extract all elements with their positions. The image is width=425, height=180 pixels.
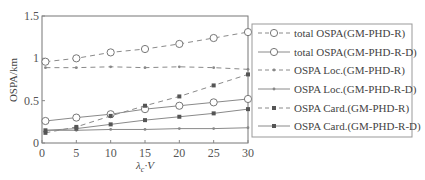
series-2: [44, 65, 249, 70]
plot-frame: [42, 16, 248, 143]
ospa-line-chart: 051015202530 00.511.5 λc·V OSPA/km total…: [0, 0, 425, 180]
plot-axes: [42, 16, 248, 143]
x-tick-label: 15: [139, 146, 151, 160]
open-circle-marker: [176, 102, 183, 109]
filled-dot-marker: [43, 128, 47, 132]
x-tick-label: 20: [173, 146, 185, 160]
small-dot-marker: [109, 128, 112, 131]
legend-label: total OSPA(GM-PHD-R-D): [294, 46, 417, 59]
y-tick-label: 1: [33, 51, 39, 65]
filled-dot-marker: [177, 115, 181, 119]
y-tick-label: 1.5: [24, 9, 39, 23]
x-axis-label: λc·V: [135, 159, 155, 174]
x-axis-label-rest: ·V: [144, 159, 155, 171]
chart-legend: total OSPA(GM-PHD-R)total OSPA(GM-PHD-R-…: [252, 24, 421, 137]
open-circle-marker: [210, 34, 217, 41]
open-circle-marker: [210, 99, 217, 106]
small-dot-marker: [144, 66, 147, 69]
legend-label: OSPA Loc.(GM-PHD-R): [294, 64, 405, 77]
small-dot-marker: [273, 88, 276, 91]
x-tick-label: 30: [242, 146, 254, 160]
open-circle-marker: [244, 95, 251, 102]
small-dot-marker: [144, 128, 147, 131]
open-circle-marker: [73, 55, 80, 62]
small-dot-marker: [247, 68, 250, 71]
series-0: [42, 28, 252, 65]
filled-dot-marker: [109, 114, 113, 118]
filled-dot-marker: [212, 83, 216, 87]
series-4: [43, 72, 250, 134]
open-circle-marker: [270, 29, 277, 36]
filled-dot-marker: [143, 104, 147, 108]
filled-dot-marker: [246, 72, 250, 76]
small-dot-marker: [178, 65, 181, 68]
open-circle-marker: [270, 48, 277, 55]
small-dot-marker: [273, 69, 276, 72]
small-dot-marker: [212, 127, 215, 130]
y-tick-label: 0: [33, 136, 39, 150]
open-circle-marker: [73, 114, 80, 121]
filled-dot-marker: [177, 94, 181, 98]
small-dot-marker: [212, 66, 215, 69]
x-tick-label: 25: [208, 146, 220, 160]
small-dot-marker: [109, 65, 112, 68]
legend-label: OSPA Card.(GM-PHD-R): [294, 102, 409, 115]
filled-dot-marker: [109, 122, 113, 126]
series-line: [45, 74, 248, 132]
legend-label: total OSPA(GM-PHD-R): [294, 27, 405, 40]
y-tick-label: 0.5: [24, 94, 39, 108]
filled-dot-marker: [272, 124, 276, 128]
open-circle-marker: [107, 49, 114, 56]
legend-label: OSPA Card.(GM-PHD-R-D): [294, 120, 421, 133]
x-tick-label: 0: [39, 146, 45, 160]
small-dot-marker: [178, 127, 181, 130]
open-circle-marker: [42, 58, 49, 65]
open-circle-marker: [244, 28, 251, 35]
open-circle-marker: [141, 45, 148, 52]
x-tick-label: 5: [73, 146, 79, 160]
open-circle-marker: [42, 117, 49, 124]
y-axis-label: OSPA/km: [7, 57, 19, 102]
x-tick-label: 10: [105, 146, 117, 160]
filled-dot-marker: [212, 111, 216, 115]
open-circle-marker: [176, 40, 183, 47]
small-dot-marker: [44, 66, 47, 69]
filled-dot-marker: [143, 118, 147, 122]
filled-dot-marker: [272, 106, 276, 110]
filled-dot-marker: [246, 107, 250, 111]
data-series: [42, 28, 252, 134]
filled-dot-marker: [74, 127, 78, 131]
small-dot-marker: [247, 126, 250, 129]
small-dot-marker: [75, 66, 78, 69]
legend-label: OSPA Loc.(GM-PHD-R-D): [294, 83, 417, 96]
